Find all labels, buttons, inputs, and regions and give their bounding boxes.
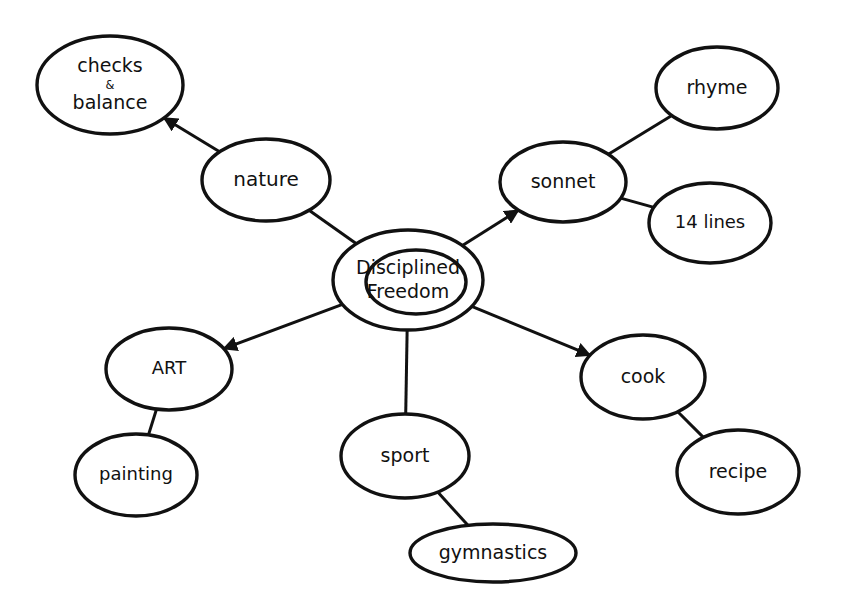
- node-checks: checks&balance: [37, 36, 183, 134]
- edge-center-to-art-arrow: [224, 304, 343, 348]
- node-nature: nature: [202, 139, 330, 221]
- edge-center-to-cook-arrow: [472, 306, 590, 355]
- node-gymnastics-label: gymnastics: [439, 541, 547, 563]
- node-checks-label: checks: [77, 54, 143, 76]
- node-rhyme-label: rhyme: [687, 76, 748, 98]
- edge-sonnet-to-lines14: [621, 198, 654, 207]
- node-painting: painting: [75, 434, 197, 516]
- node-center-label: Freedom: [367, 280, 450, 302]
- node-cook: cook: [581, 335, 705, 419]
- node-lines14-label: 14 lines: [675, 211, 746, 232]
- node-art: ART: [106, 328, 232, 410]
- edge-cook-to-recipe: [678, 412, 704, 438]
- node-nature-label: nature: [233, 167, 299, 191]
- node-cook-label: cook: [621, 365, 666, 387]
- edge-art-to-painting: [148, 409, 156, 435]
- node-art-label: ART: [152, 357, 188, 378]
- mind-map: DisciplinedFreedomnaturechecks&balanceso…: [0, 0, 842, 611]
- node-recipe-label: recipe: [709, 460, 768, 482]
- node-lines14: 14 lines: [649, 183, 771, 263]
- edge-sport-to-gymnastics: [438, 492, 468, 525]
- node-center: DisciplinedFreedom: [333, 230, 483, 330]
- node-checks-label: &: [106, 78, 115, 92]
- node-recipe: recipe: [677, 430, 799, 514]
- node-sonnet: sonnet: [500, 142, 626, 222]
- edge-center-to-sport: [406, 330, 407, 414]
- edge-sonnet-to-rhyme: [608, 116, 671, 155]
- edge-nature-to-checks-arrow: [164, 118, 220, 152]
- node-rhyme: rhyme: [656, 47, 778, 129]
- node-sonnet-label: sonnet: [531, 170, 596, 192]
- node-checks-label: balance: [73, 91, 148, 113]
- node-painting-label: painting: [99, 463, 173, 484]
- edge-center-to-nature: [309, 210, 356, 243]
- node-gymnastics: gymnastics: [410, 524, 576, 582]
- edge-center-to-sonnet-arrow: [462, 210, 518, 245]
- node-center-label: Disciplined: [356, 256, 460, 278]
- node-sport-label: sport: [381, 444, 430, 466]
- node-sport: sport: [341, 414, 469, 498]
